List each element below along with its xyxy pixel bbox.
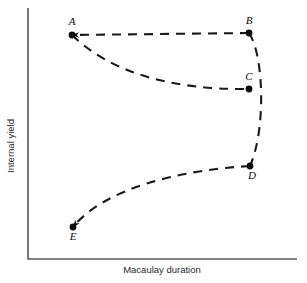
x-axis-title: Macaulay duration <box>123 264 201 275</box>
axes-group <box>28 8 297 259</box>
point-label-d: D <box>247 169 256 181</box>
curve-e-d <box>73 166 250 227</box>
axis-lines <box>28 8 297 259</box>
data-point-a[interactable] <box>69 32 76 39</box>
data-point-b[interactable] <box>246 30 253 37</box>
chart-canvas: A B C D E Macaulay duration Internal yie… <box>0 0 307 283</box>
curves-group <box>72 33 261 227</box>
point-label-b: B <box>246 14 253 26</box>
curve-a-b <box>72 33 249 35</box>
data-point-c[interactable] <box>246 86 253 93</box>
point-label-e: E <box>69 230 77 242</box>
curve-a-c <box>72 35 249 89</box>
data-points-group <box>69 30 254 231</box>
curve-b-d <box>249 33 261 166</box>
y-axis-title: Internal yield <box>5 119 16 173</box>
chart-figure: A B C D E Macaulay duration Internal yie… <box>0 0 307 283</box>
point-label-a: A <box>68 15 76 27</box>
point-label-c: C <box>245 70 253 82</box>
